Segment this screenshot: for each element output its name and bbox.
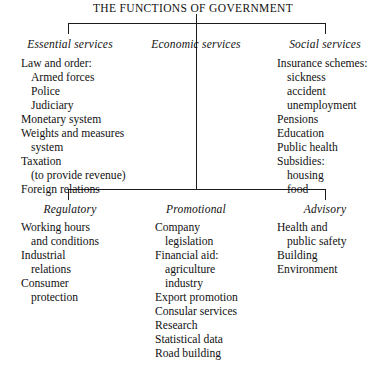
heading-promotional: Promotional: [136, 203, 256, 215]
list-line: and conditions: [21, 235, 99, 249]
list-promotional: CompanylegislationFinancial aid:agricult…: [155, 221, 238, 361]
list-line: Education: [277, 127, 367, 141]
heading-essential-services: Essential services: [0, 38, 140, 50]
list-line: Financial aid:: [155, 249, 238, 263]
heading-advisory: Advisory: [265, 203, 385, 215]
list-line: Taxation: [21, 155, 126, 169]
list-advisory: Health andpublic safetyBuildingEnvironme…: [277, 221, 347, 277]
list-line: Health and: [277, 221, 347, 235]
heading-promotional-label: Promotional: [166, 203, 226, 215]
list-line: sickness: [277, 71, 367, 85]
list-line: Environment: [277, 263, 347, 277]
list-line: food: [277, 183, 367, 197]
list-line: Police: [21, 85, 126, 99]
list-line: Subsidies:: [277, 155, 367, 169]
list-line: Monetary system: [21, 113, 126, 127]
list-line: agriculture: [155, 263, 238, 277]
list-line: Company: [155, 221, 238, 235]
list-line: housing: [277, 169, 367, 183]
heading-advisory-label: Advisory: [304, 203, 346, 215]
list-line: Building: [277, 249, 347, 263]
list-line: system: [21, 141, 126, 155]
list-essential-services: Law and order:Armed forcesPoliceJudiciar…: [21, 57, 126, 197]
list-line: Weights and measures: [21, 127, 126, 141]
list-line: Consumer: [21, 277, 99, 291]
heading-essential-services-label: Essential services: [27, 38, 113, 50]
list-line: unemployment: [277, 99, 367, 113]
heading-regulatory: Regulatory: [0, 203, 140, 215]
list-line: (to provide revenue): [21, 169, 126, 183]
list-line: legislation: [155, 235, 238, 249]
list-line: Export promotion: [155, 291, 238, 305]
diagram-title: THE FUNCTIONS OF GOVERNMENT: [0, 2, 386, 14]
list-line: accident: [277, 85, 367, 99]
list-line: industry: [155, 277, 238, 291]
upper-bracket-drop-left: [68, 23, 69, 34]
list-line: relations: [21, 263, 99, 277]
list-line: Foreign relations: [21, 183, 126, 197]
upper-bracket-drop-right: [325, 23, 326, 34]
list-regulatory: Working hoursand conditionsIndustrialrel…: [21, 221, 99, 305]
heading-economic-services: Economic services: [136, 38, 256, 50]
list-line: Statistical data: [155, 333, 238, 347]
upper-bracket-horizontal-line: [68, 23, 326, 24]
list-line: Armed forces: [21, 71, 126, 85]
heading-regulatory-label: Regulatory: [43, 203, 96, 215]
list-line: Public health: [277, 141, 367, 155]
list-line: Working hours: [21, 221, 99, 235]
list-line: Road building: [155, 347, 238, 361]
list-line: Pensions: [277, 113, 367, 127]
list-line: Law and order:: [21, 57, 126, 71]
list-line: Research: [155, 319, 238, 333]
list-line: Insurance schemes:: [277, 57, 367, 71]
heading-economic-services-label: Economic services: [151, 38, 240, 50]
government-functions-diagram: THE FUNCTIONS OF GOVERNMENT Essential se…: [0, 0, 386, 365]
list-line: public safety: [277, 235, 347, 249]
list-line: Consular services: [155, 305, 238, 319]
list-line: Judiciary: [21, 99, 126, 113]
heading-social-services-label: Social services: [289, 38, 361, 50]
list-social-services: Insurance schemes:sicknessaccidentunempl…: [277, 57, 367, 197]
list-line: Industrial: [21, 249, 99, 263]
list-line: protection: [21, 291, 99, 305]
heading-social-services: Social services: [265, 38, 385, 50]
